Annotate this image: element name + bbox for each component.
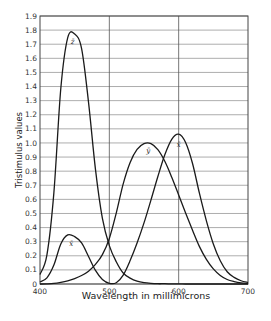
x-tick-label: 400 (33, 287, 48, 296)
y-tick-label: 1.5 (25, 68, 37, 77)
y-tick-label: 0.9 (25, 153, 37, 162)
y-tick-label: 1.3 (25, 96, 37, 105)
y-tick-label: 1.2 (25, 110, 37, 119)
curve-label: x̄ (69, 240, 73, 248)
y-tick-label: 0.6 (25, 195, 37, 204)
axis-ticks: 00.10.20.30.40.50.60.70.80.91.01.11.21.3… (25, 12, 255, 296)
x-tick-label: 700 (241, 287, 256, 296)
y-tick-label: 1.4 (25, 82, 37, 91)
y-tick-label: 0.4 (25, 223, 37, 232)
curve-label: ȳ (145, 147, 151, 155)
y-tick-label: 0.1 (25, 265, 37, 274)
y-tick-label: 0.3 (25, 237, 37, 246)
y-axis-label: Tristimulus values (14, 111, 24, 189)
y-tick-label: 1.7 (25, 40, 37, 49)
tristimulus-chart: 00.10.20.30.40.50.60.70.80.91.01.11.21.3… (0, 0, 271, 321)
curve-label: x̄ (177, 141, 181, 149)
y-tick-label: 1.0 (25, 139, 37, 148)
y-tick-label: 0.5 (25, 209, 37, 218)
y-tick-label: 1.1 (25, 124, 37, 133)
y-tick-label: 1.6 (25, 54, 37, 63)
y-tick-label: 0.8 (25, 167, 37, 176)
y-tick-label: 1.8 (25, 26, 37, 35)
y-tick-label: 1.9 (25, 12, 37, 21)
x-axis-label: Wavelength in millimicrons (82, 290, 211, 301)
y-tick-label: 0.2 (25, 251, 37, 260)
y-tick-label: 0.7 (25, 181, 37, 190)
curve-label: z̄ (70, 38, 75, 46)
curve (40, 134, 248, 284)
